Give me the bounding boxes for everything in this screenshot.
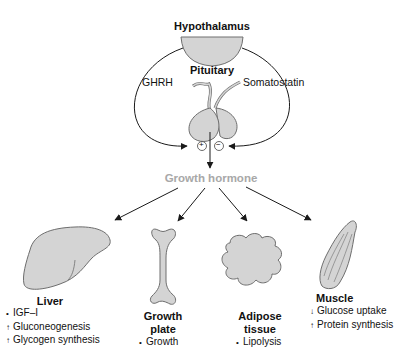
- increase-arrow-icon: ↑: [6, 322, 13, 335]
- adipose-effects: •Lipolysis: [236, 336, 281, 350]
- ghrh-label: GHRH: [142, 76, 173, 88]
- arrow-to-adipose: [219, 188, 247, 221]
- growth-plate-effects: •Growth: [139, 336, 178, 350]
- bullet-icon: •: [6, 308, 13, 321]
- growth-plate-label-line1: Growth: [144, 310, 183, 322]
- adipose-label-line1: Adipose: [238, 310, 281, 322]
- arrow-to-liver: [115, 188, 178, 220]
- increase-arrow-icon: ↑: [6, 335, 13, 348]
- adipose-shape: [222, 234, 282, 286]
- muscle-shape: [320, 221, 356, 289]
- effect-item: •IGF–I: [6, 307, 100, 321]
- pituitary-shape: [189, 82, 240, 141]
- hypothalamus-shape: [181, 37, 243, 66]
- bullet-icon: •: [236, 337, 243, 350]
- increase-arrow-icon: ↑: [310, 320, 317, 333]
- bullet-icon: •: [139, 337, 146, 350]
- effect-item: ↑Glycogen synthesis: [6, 334, 100, 348]
- effect-item: ↑Protein synthesis: [310, 319, 393, 333]
- growth-plate-label-line2: plate: [150, 323, 176, 335]
- adipose-label-line2: tissue: [244, 323, 276, 335]
- growth-hormone-diagram: Hypothalamus Pituitary GHRH Somatostatin…: [0, 0, 420, 362]
- effect-item: ↓Glucose uptake: [310, 305, 393, 319]
- liver-shape: [23, 227, 110, 289]
- effect-item: •Lipolysis: [236, 336, 281, 350]
- effect-item: ↑Gluconeogenesis: [6, 321, 100, 335]
- decrease-arrow-icon: ↓: [310, 306, 317, 319]
- plus-sign: +: [199, 140, 204, 149]
- liver-label: Liver: [37, 295, 63, 307]
- minus-sign: −: [216, 140, 221, 149]
- muscle-label: Muscle: [316, 292, 353, 304]
- somatostatin-pathway-arrow: [229, 48, 290, 146]
- hypothalamus-label: Hypothalamus: [174, 20, 250, 32]
- liver-effects: •IGF–I ↑Gluconeogenesis ↑Glycogen synthe…: [6, 307, 100, 348]
- somatostatin-label: Somatostatin: [243, 76, 304, 88]
- pituitary-label: Pituitary: [190, 64, 234, 76]
- arrow-to-growth-plate: [178, 188, 205, 221]
- arrow-to-muscle: [246, 187, 311, 220]
- muscle-effects: ↓Glucose uptake ↑Protein synthesis: [310, 305, 393, 332]
- growth-hormone-label: Growth hormone: [165, 172, 258, 184]
- bone-shape: [150, 229, 175, 304]
- ghrh-pathway-arrow: [134, 48, 187, 146]
- effect-item: •Growth: [139, 336, 178, 350]
